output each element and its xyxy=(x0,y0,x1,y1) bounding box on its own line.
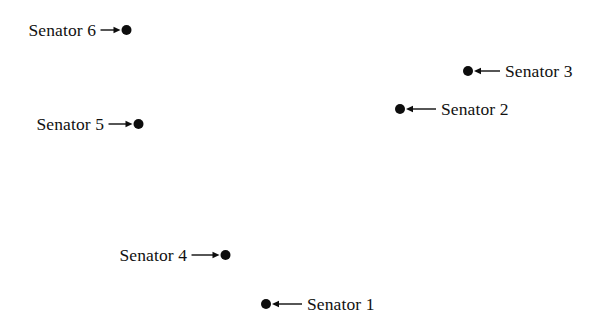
data-point-marker xyxy=(395,104,405,114)
leader-arrow-icon xyxy=(474,65,500,77)
leader-arrow-icon xyxy=(101,24,121,36)
leader-arrow-icon xyxy=(272,298,302,310)
data-point-label: Senator 1 xyxy=(307,293,374,315)
data-point-label: Senator 4 xyxy=(120,244,187,266)
data-point-marker xyxy=(122,25,132,35)
data-point-annotation: Senator 5 xyxy=(37,113,144,135)
data-point-annotation: Senator 3 xyxy=(463,60,572,82)
data-point-annotation: Senator 6 xyxy=(29,19,132,41)
data-point-label: Senator 5 xyxy=(37,113,104,135)
leader-arrow-icon xyxy=(406,103,436,115)
data-point-annotation: Senator 4 xyxy=(120,244,231,266)
leader-arrow-icon xyxy=(109,118,133,130)
data-point-label: Senator 6 xyxy=(29,19,96,41)
data-point-marker xyxy=(134,119,144,129)
data-point-annotation: Senator 2 xyxy=(395,98,508,120)
data-point-label: Senator 3 xyxy=(505,60,572,82)
data-point-annotation: Senator 1 xyxy=(261,293,374,315)
data-point-marker xyxy=(261,299,271,309)
leader-arrow-icon xyxy=(192,249,220,261)
data-point-marker xyxy=(221,250,231,260)
scatter-plot-figure: Senator 1Senator 2Senator 3Senator 4Sena… xyxy=(0,0,607,319)
data-point-label: Senator 2 xyxy=(441,98,508,120)
data-point-marker xyxy=(463,66,473,76)
